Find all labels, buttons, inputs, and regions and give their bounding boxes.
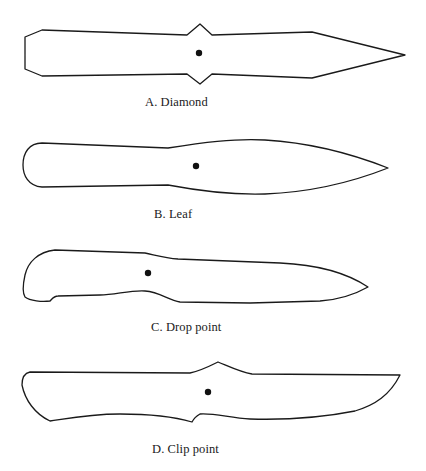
- balance-hole-icon: [145, 270, 151, 276]
- knife-diamond: [25, 24, 405, 84]
- leaf-knife-outline: [23, 140, 388, 195]
- knife-drop-point: [23, 250, 368, 303]
- drop-point-knife-outline: [23, 250, 368, 303]
- caption-clip-point: D. Clip point: [152, 442, 219, 457]
- knife-outlines-canvas: [0, 0, 426, 471]
- knife-clip-point: [22, 362, 400, 422]
- balance-hole-icon: [205, 389, 211, 395]
- knife-leaf: [23, 140, 388, 195]
- caption-diamond: A. Diamond: [145, 95, 208, 110]
- caption-drop-point: C. Drop point: [151, 320, 221, 335]
- diamond-knife-outline: [25, 24, 405, 84]
- balance-hole-icon: [193, 163, 199, 169]
- balance-hole-icon: [196, 50, 202, 56]
- caption-leaf: B. Leaf: [154, 207, 192, 222]
